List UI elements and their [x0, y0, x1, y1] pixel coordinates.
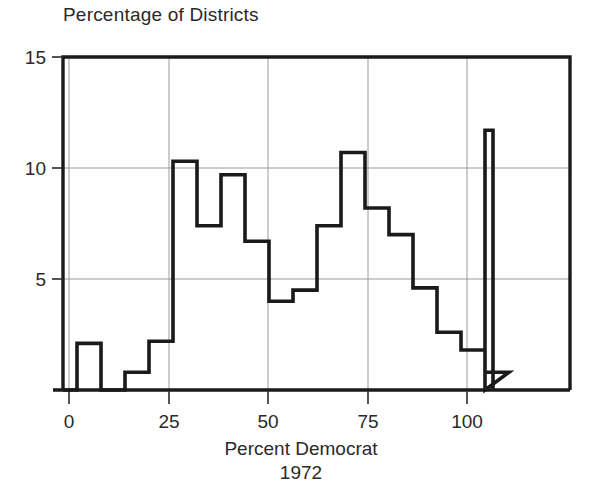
- xtick-label-0: 0: [64, 411, 75, 432]
- chart-canvas: 15 10 5 0 25 50 75 100: [0, 0, 602, 501]
- ytick-label-10: 10: [25, 158, 46, 179]
- xtick-label-50: 50: [257, 411, 278, 432]
- histogram-figure: Percentage of Districts 15 10 5 0: [0, 0, 602, 501]
- ytick-label-5: 5: [35, 269, 46, 290]
- x-axis-label-line1: Percent Democrat: [0, 438, 602, 460]
- xtick-label-75: 75: [357, 411, 378, 432]
- ytick-label-15: 15: [25, 47, 46, 68]
- xtick-label-25: 25: [158, 411, 179, 432]
- xtick-label-100: 100: [451, 411, 483, 432]
- x-axis-label-line2: 1972: [0, 462, 602, 484]
